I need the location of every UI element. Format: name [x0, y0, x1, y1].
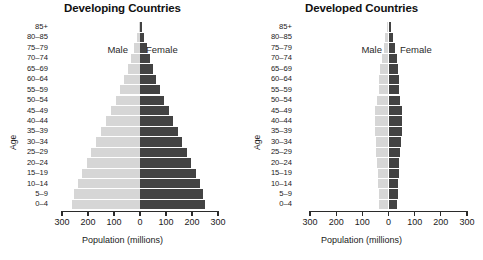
bar-male	[131, 54, 140, 63]
bar-female	[140, 54, 150, 63]
chart-panel-developed: Developed Countries Age 85+80–8575–7970–…	[240, 0, 483, 260]
x-axis-tick-label: 200	[433, 217, 448, 227]
age-tick-label: 40–44	[258, 116, 292, 126]
age-tick-label: 20–24	[14, 158, 48, 168]
bar-female	[140, 158, 191, 167]
table-row	[310, 158, 467, 168]
bar-male	[380, 64, 388, 73]
bar-male	[379, 189, 389, 198]
table-row	[62, 168, 218, 178]
age-tick-label: 85+	[258, 22, 292, 32]
age-tick-labels-developed: 85+80–8575–7970–7465–6960–6455–5950–5445…	[258, 22, 292, 210]
bar-female	[140, 127, 178, 136]
age-tick-label: 25–29	[14, 147, 48, 157]
bar-male	[91, 148, 140, 157]
x-axis-tick	[139, 211, 140, 216]
bar-female	[389, 200, 398, 209]
chart-panel-developing: Developing Countries Age 85+80–8575–7970…	[0, 0, 245, 260]
age-tick-label: 40–44	[14, 116, 48, 126]
x-axis-tick-label: 100	[106, 217, 121, 227]
x-axis-tick-label: 0	[386, 217, 391, 227]
bar-rows-developed	[310, 22, 467, 210]
chart-title-developing: Developing Countries	[0, 2, 245, 14]
table-row	[310, 74, 467, 84]
bar-female	[140, 179, 200, 188]
x-axis-tick-label: 200	[80, 217, 95, 227]
table-row	[310, 116, 467, 126]
bar-female	[140, 169, 196, 178]
table-row	[310, 147, 467, 157]
table-row	[62, 116, 218, 126]
bar-male	[377, 158, 389, 167]
bar-male	[87, 158, 140, 167]
age-tick-label: 45–49	[14, 106, 48, 116]
age-tick-label: 10–14	[258, 179, 292, 189]
table-row	[310, 32, 467, 42]
plot-area-developing	[62, 22, 218, 210]
bar-female	[389, 189, 398, 198]
bar-female	[389, 54, 397, 63]
table-row	[62, 43, 218, 53]
bar-female	[389, 43, 396, 52]
bar-female	[140, 116, 173, 125]
bar-female	[389, 33, 394, 42]
table-row	[310, 53, 467, 63]
bar-female	[140, 200, 205, 209]
bar-male	[376, 137, 389, 146]
age-tick-label: 85+	[14, 22, 48, 32]
bar-female	[140, 85, 160, 94]
bar-female	[140, 148, 187, 157]
x-axis-tick-label: 300	[54, 217, 69, 227]
table-row	[62, 32, 218, 42]
bar-male	[74, 189, 140, 198]
age-tick-label: 75–79	[258, 43, 292, 53]
x-axis-tick	[362, 211, 363, 216]
series-label-male-developing: Male	[107, 44, 128, 55]
age-tick-labels-developing: 85+80–8575–7970–7465–6960–6455–5950–5445…	[14, 22, 48, 210]
age-tick-label: 55–59	[258, 85, 292, 95]
age-tick-label: 60–64	[14, 74, 48, 84]
bar-female	[389, 148, 401, 157]
table-row	[62, 199, 218, 209]
table-row	[62, 95, 218, 105]
x-axis-title-developed: Population (millions)	[240, 235, 483, 245]
x-axis-tick	[191, 211, 192, 216]
age-tick-label: 70–74	[14, 53, 48, 63]
bar-male	[116, 96, 140, 105]
age-tick-label: 25–29	[258, 147, 292, 157]
x-axis-tick	[217, 211, 218, 216]
age-tick-label: 50–54	[14, 95, 48, 105]
bar-female	[389, 116, 402, 125]
table-row	[62, 74, 218, 84]
age-tick-label: 70–74	[258, 53, 292, 63]
x-axis-tick-label: 200	[329, 217, 344, 227]
series-label-female-developing: Female	[146, 44, 178, 55]
bar-female	[389, 96, 401, 105]
x-axis-tick	[87, 211, 88, 216]
bar-female	[140, 75, 156, 84]
bar-male	[378, 179, 388, 188]
x-axis-tick	[466, 211, 467, 216]
bar-female	[140, 106, 169, 115]
bar-rows-developing	[62, 22, 218, 210]
x-axis-tick-label: 300	[302, 217, 317, 227]
age-tick-label: 0–4	[14, 199, 48, 209]
bar-male	[378, 169, 389, 178]
bar-male	[101, 127, 140, 136]
x-axis-title-developing: Population (millions)	[0, 235, 245, 245]
bar-female	[389, 64, 398, 73]
table-row	[310, 85, 467, 95]
chart-title-developed: Developed Countries	[240, 2, 483, 14]
x-axis-tick	[414, 211, 415, 216]
table-row	[310, 43, 467, 53]
x-axis-tick-label: 300	[459, 217, 474, 227]
bar-female	[140, 137, 182, 146]
bar-female	[389, 85, 399, 94]
bar-female	[140, 22, 142, 31]
bar-female	[389, 169, 399, 178]
table-row	[62, 64, 218, 74]
x-axis-tick-label: 300	[210, 217, 225, 227]
bar-male	[78, 179, 140, 188]
table-row	[310, 95, 467, 105]
x-axis-tick	[336, 211, 337, 216]
